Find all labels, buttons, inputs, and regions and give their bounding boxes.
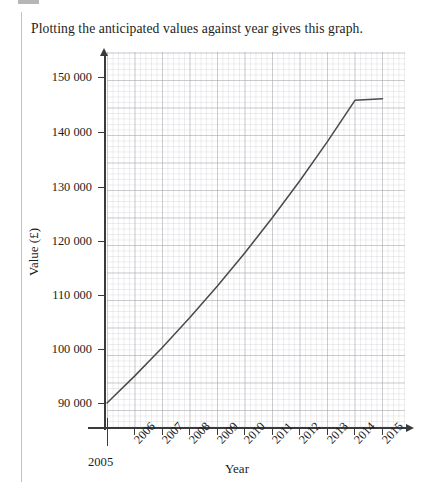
y-tick-110000	[98, 295, 106, 296]
y-tick-120000	[98, 241, 106, 242]
y-tick-150000	[98, 77, 106, 78]
y-tick-140000	[98, 132, 106, 133]
x-tick-label-2005: 2005	[88, 455, 113, 470]
y-axis-title: Value (£)	[26, 207, 42, 297]
origin-marker-line	[107, 418, 108, 446]
page-canvas: Plotting the anticipated values against …	[0, 0, 434, 488]
y-tick-100000	[98, 349, 106, 350]
y-tick-label-140000: 140 000	[22, 125, 92, 140]
y-tick-label-90000: 90 000	[22, 396, 92, 411]
y-tick-90000	[98, 403, 106, 404]
y-axis-arrow-icon	[100, 48, 108, 56]
chart-gridlines	[107, 52, 405, 428]
y-tick-label-100000: 100 000	[22, 342, 92, 357]
y-axis-line	[104, 55, 106, 430]
x-axis-title: Year	[225, 461, 249, 477]
y-tick-130000	[98, 187, 106, 188]
line-chart: 150 000 140 000 130 000 120 000 110 000 …	[0, 0, 434, 488]
y-tick-label-150000: 150 000	[22, 70, 92, 85]
x-axis-arrow-icon	[406, 424, 414, 432]
y-tick-label-130000: 130 000	[22, 180, 92, 195]
